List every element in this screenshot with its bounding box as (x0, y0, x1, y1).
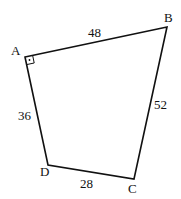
vertex-label-a: A (11, 43, 21, 58)
vertex-label-d: D (40, 164, 49, 179)
side-label-da: 36 (18, 108, 32, 123)
quadrilateral-abcd (25, 27, 167, 179)
vertex-label-b: B (164, 10, 173, 25)
side-label-bc: 52 (154, 97, 167, 112)
side-label-cd: 28 (80, 176, 93, 191)
quadrilateral-diagram: A B C D 48 52 28 36 (0, 0, 181, 199)
side-label-ab: 48 (88, 25, 101, 40)
vertex-label-c: C (128, 181, 137, 196)
